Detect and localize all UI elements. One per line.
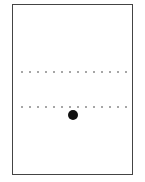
- dot: [21, 106, 23, 108]
- dot: [125, 71, 127, 73]
- dotted-line-lower: [21, 106, 127, 108]
- diagram-frame: [12, 4, 133, 175]
- dot: [109, 71, 111, 73]
- dot: [117, 106, 119, 108]
- dotted-line-upper: [21, 71, 127, 73]
- dot: [53, 71, 55, 73]
- dot: [45, 71, 47, 73]
- dot: [85, 106, 87, 108]
- dot: [101, 71, 103, 73]
- dot: [117, 71, 119, 73]
- position-marker: [68, 110, 78, 120]
- dot: [61, 106, 63, 108]
- dot: [93, 71, 95, 73]
- dot: [45, 106, 47, 108]
- dot: [29, 71, 31, 73]
- dot: [29, 106, 31, 108]
- dot: [21, 71, 23, 73]
- dot: [77, 71, 79, 73]
- dot: [125, 106, 127, 108]
- dot: [109, 106, 111, 108]
- dot: [69, 71, 71, 73]
- dot: [37, 71, 39, 73]
- dot: [53, 106, 55, 108]
- dot: [93, 106, 95, 108]
- dot: [77, 106, 79, 108]
- dot: [37, 106, 39, 108]
- dot: [69, 106, 71, 108]
- dot: [85, 71, 87, 73]
- dot: [61, 71, 63, 73]
- dot: [101, 106, 103, 108]
